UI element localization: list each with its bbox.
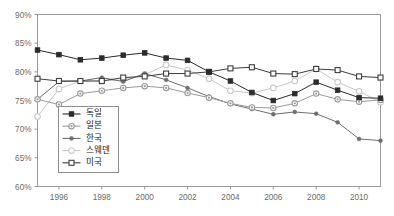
legend-item-label: 독일 (86, 108, 102, 118)
x-axis-ticks: 19961998200020022004200620082010 (50, 187, 369, 202)
x-axis-tick-label: 2002 (178, 193, 197, 202)
legend-item-label: 스웨덴 (86, 144, 110, 155)
legend-item-label: 일본 (86, 120, 102, 130)
x-axis-tick-label: 2000 (136, 193, 155, 202)
chart-canvas: 90%85%80%75%70%65%60% 199619982000200220… (0, 0, 394, 216)
y-axis-tick-label: 85% (15, 39, 31, 48)
x-axis-tick-label: 2010 (350, 193, 369, 202)
x-axis-tick-label: 2004 (221, 193, 240, 202)
y-axis-ticks: 90%85%80%75%70%65%60% (15, 11, 37, 192)
chart-legend: 독일일본한국스웨덴미국 (59, 107, 119, 173)
x-axis-tick-label: 2006 (264, 193, 283, 202)
y-axis-tick-label: 75% (15, 97, 31, 106)
y-axis-tick-label: 65% (15, 154, 31, 163)
x-axis-tick-label: 2008 (307, 193, 326, 202)
legend-item-label: 한국 (86, 133, 102, 143)
legend-item-label: 미국 (86, 157, 102, 167)
y-axis-tick-label: 80% (15, 68, 31, 77)
line-chart: 90%85%80%75%70%65%60% 199619982000200220… (0, 0, 394, 216)
y-axis-tick-label: 90% (15, 11, 31, 20)
x-axis-tick-label: 1998 (93, 193, 112, 202)
y-axis-tick-label: 60% (15, 183, 31, 192)
x-axis-tick-label: 1996 (50, 193, 69, 202)
y-axis-tick-label: 70% (15, 125, 31, 134)
